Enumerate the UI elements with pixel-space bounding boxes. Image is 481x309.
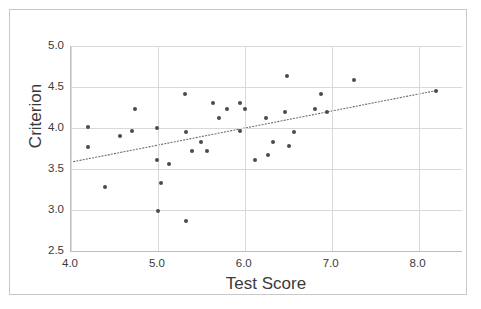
data-point <box>285 74 289 78</box>
data-point <box>325 110 329 114</box>
data-point <box>243 107 247 111</box>
data-point <box>205 149 209 153</box>
data-point <box>283 110 287 114</box>
x-axis-title: Test Score <box>70 274 462 294</box>
data-point <box>271 140 275 144</box>
data-point <box>238 101 242 105</box>
plot-area <box>70 46 462 251</box>
data-point <box>434 89 438 93</box>
y-tick-label: 4.0 <box>12 122 64 134</box>
data-point <box>211 101 215 105</box>
data-point <box>238 129 242 133</box>
data-point <box>253 158 257 162</box>
y-axis-tick-labels: 5.04.54.03.53.02.5 <box>10 10 64 294</box>
data-point <box>287 144 291 148</box>
gridline-vertical <box>419 46 420 251</box>
data-point <box>225 107 229 111</box>
data-point <box>217 116 221 120</box>
gridline-vertical <box>71 46 72 251</box>
figure-border: Criterion 5.04.54.03.53.02.5 4.05.06.07.… <box>9 9 467 295</box>
data-point <box>130 129 134 133</box>
data-point <box>155 126 159 130</box>
scatter-plot-figure: Criterion 5.04.54.03.53.02.5 4.05.06.07.… <box>0 0 481 309</box>
x-tick-label: 7.0 <box>308 257 354 269</box>
data-point <box>86 145 90 149</box>
data-point <box>167 162 171 166</box>
y-tick-label: 5.0 <box>12 40 64 52</box>
data-point <box>292 130 296 134</box>
data-point <box>156 209 160 213</box>
data-point <box>118 134 122 138</box>
gridline-vertical <box>332 46 333 251</box>
data-point <box>352 78 356 82</box>
gridline-horizontal <box>71 169 462 170</box>
gridline-horizontal <box>71 87 462 88</box>
x-tick-label: 6.0 <box>221 257 267 269</box>
data-point <box>266 153 270 157</box>
gridline-horizontal <box>71 46 462 47</box>
trendline <box>71 46 462 251</box>
x-tick-label: 4.0 <box>47 257 93 269</box>
data-point <box>133 107 137 111</box>
data-point <box>184 130 188 134</box>
y-tick-label: 2.5 <box>12 245 64 257</box>
y-tick-label: 3.5 <box>12 163 64 175</box>
data-point <box>313 107 317 111</box>
data-point <box>319 92 323 96</box>
x-tick-label: 5.0 <box>134 257 180 269</box>
data-point <box>183 92 187 96</box>
gridline-vertical <box>158 46 159 251</box>
x-axis-line <box>70 251 462 252</box>
data-point <box>103 185 107 189</box>
x-tick-label: 8.0 <box>395 257 441 269</box>
data-point <box>155 158 159 162</box>
gridline-vertical <box>245 46 246 251</box>
gridline-horizontal <box>71 210 462 211</box>
data-point <box>190 149 194 153</box>
data-point <box>264 116 268 120</box>
data-point <box>159 181 163 185</box>
y-tick-label: 4.5 <box>12 81 64 93</box>
y-tick-label: 3.0 <box>12 204 64 216</box>
data-point <box>184 219 188 223</box>
data-point <box>199 140 203 144</box>
